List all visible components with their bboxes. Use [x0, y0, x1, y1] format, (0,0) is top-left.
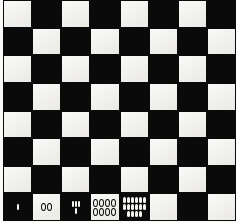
count-marks-row-2: [75, 208, 77, 214]
count-marks-cell-2: [33, 194, 60, 220]
count-mark: [99, 208, 104, 216]
count-mark: [127, 211, 130, 217]
count-marks-row-2: [93, 208, 116, 216]
board-square-r8-c4: [90, 193, 119, 221]
count-mark: [143, 197, 146, 203]
board-square-r7-c6: [149, 166, 178, 194]
board-square-r4-c2: [32, 83, 61, 111]
board-square-r2-c8: [207, 28, 236, 56]
board-square-r4-c1: [3, 83, 32, 111]
board-square-r2-c7: [178, 28, 207, 56]
count-mark: [72, 201, 74, 207]
board-square-r6-c4: [90, 138, 119, 166]
checkerboard: [3, 0, 236, 221]
board-square-r7-c5: [120, 166, 149, 194]
board-square-r2-c6: [149, 28, 178, 56]
count-mark: [41, 203, 46, 211]
board-square-r8-c5: [120, 193, 149, 221]
board-square-r7-c2: [32, 166, 61, 194]
board-square-r3-c2: [32, 55, 61, 83]
board-square-r6-c3: [61, 138, 90, 166]
board-square-r1-c1: [3, 0, 32, 28]
screenshot-canvas: [0, 0, 236, 223]
board-square-r2-c2: [32, 28, 61, 56]
count-marks-cell-1: [3, 193, 32, 221]
board-square-r8-c2: [32, 193, 61, 221]
board-square-r4-c5: [120, 83, 149, 111]
board-square-r2-c3: [61, 28, 90, 56]
board-square-r3-c1: [3, 55, 32, 83]
count-marks-row-1: [93, 199, 116, 207]
count-mark: [135, 197, 138, 203]
count-mark: [93, 199, 98, 207]
board-square-r1-c6: [149, 0, 178, 28]
board-square-r2-c4: [90, 28, 119, 56]
board-square-r6-c1: [3, 138, 32, 166]
count-marks-cell-3: [61, 193, 90, 221]
board-square-r6-c5: [120, 138, 149, 166]
count-mark: [131, 197, 134, 203]
board-square-r8-c6: [149, 193, 178, 221]
board-square-r5-c6: [149, 111, 178, 139]
count-mark: [105, 208, 110, 216]
board-square-r2-c5: [120, 28, 149, 56]
count-mark: [135, 204, 138, 210]
board-square-r1-c5: [120, 0, 149, 28]
count-mark: [127, 197, 130, 203]
board-square-r6-c2: [32, 138, 61, 166]
count-mark: [47, 203, 52, 211]
count-marks-cell-5: [120, 193, 149, 221]
board-square-r4-c3: [61, 83, 90, 111]
board-square-r6-c8: [207, 138, 236, 166]
board-square-r7-c1: [3, 166, 32, 194]
board-square-r5-c8: [207, 111, 236, 139]
board-square-r2-c1: [3, 28, 32, 56]
count-marks-cell-4: [91, 194, 118, 220]
count-mark: [139, 204, 142, 210]
board-square-r7-c4: [90, 166, 119, 194]
board-square-r8-c8: [207, 193, 236, 221]
count-marks-row-1: [123, 197, 146, 203]
count-mark: [135, 211, 138, 217]
board-square-r3-c6: [149, 55, 178, 83]
board-square-r6-c7: [178, 138, 207, 166]
count-mark: [75, 201, 77, 207]
count-mark: [123, 197, 126, 203]
board-square-r5-c5: [120, 111, 149, 139]
board-square-r1-c7: [178, 0, 207, 28]
count-mark: [143, 204, 146, 210]
board-square-r7-c8: [207, 166, 236, 194]
count-marks-row-2: [123, 204, 146, 210]
paper-bottom-margin: [0, 221, 236, 223]
board-square-r8-c3: [61, 193, 90, 221]
count-mark: [105, 199, 110, 207]
count-mark: [99, 199, 104, 207]
count-mark: [127, 204, 130, 210]
board-square-r4-c4: [90, 83, 119, 111]
count-mark: [78, 201, 80, 207]
board-square-r3-c5: [120, 55, 149, 83]
board-square-r5-c4: [90, 111, 119, 139]
board-square-r3-c4: [90, 55, 119, 83]
board-square-r1-c4: [90, 0, 119, 28]
board-square-r7-c7: [178, 166, 207, 194]
board-square-r1-c2: [32, 0, 61, 28]
count-mark: [139, 211, 142, 217]
board-square-r4-c6: [149, 83, 178, 111]
board-square-r3-c8: [207, 55, 236, 83]
board-square-r5-c2: [32, 111, 61, 139]
board-square-r1-c3: [61, 0, 90, 28]
board-square-r3-c3: [61, 55, 90, 83]
board-square-r5-c7: [178, 111, 207, 139]
count-mark: [123, 204, 126, 210]
board-square-r1-c8: [207, 0, 236, 28]
count-marks-row-1: [17, 204, 19, 210]
board-square-r8-c1: [3, 193, 32, 221]
count-mark: [111, 199, 116, 207]
count-mark: [131, 211, 134, 217]
board-square-r3-c7: [178, 55, 207, 83]
board-square-r4-c7: [178, 83, 207, 111]
count-mark: [131, 204, 134, 210]
board-square-r7-c3: [61, 166, 90, 194]
board-square-r8-c7: [178, 193, 207, 221]
